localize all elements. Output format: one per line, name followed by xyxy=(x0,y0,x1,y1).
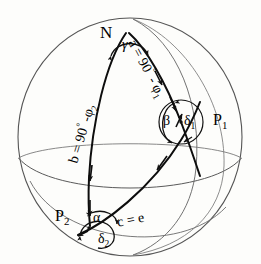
equator-front-arc xyxy=(19,158,242,188)
angle-delta2-subscript: 2 xyxy=(105,239,110,249)
point-1-subscript: 1 xyxy=(222,119,227,131)
label-angle-beta: β xyxy=(163,114,170,128)
angle-delta2-text: δ xyxy=(98,231,105,246)
angle-beta-text: β xyxy=(163,113,170,128)
equator-back-arc xyxy=(19,144,242,158)
point-2-subscript: 2 xyxy=(64,215,69,227)
point-2-text: P xyxy=(55,207,64,224)
label-point-1: P1 xyxy=(213,112,227,131)
angle-delta1-subscript: 1 xyxy=(191,121,196,131)
vertex-p2-dot xyxy=(87,226,90,229)
label-north-pole: N xyxy=(100,24,112,41)
angle-alpha-text: α xyxy=(93,210,100,225)
angle-delta1-text: δ xyxy=(184,113,191,128)
label-point-2: P2 xyxy=(55,208,69,227)
label-angle-delta2: δ2 xyxy=(98,232,109,249)
vertex-p1-dot xyxy=(179,120,182,123)
spherical-triangle-figure: N γ a = 90° - φ1 b = 90° -φ2 c = e β δ1 … xyxy=(0,0,261,264)
label-angle-delta1: δ1 xyxy=(184,114,195,131)
north-pole-text: N xyxy=(100,23,112,42)
label-angle-alpha: α xyxy=(93,211,100,225)
point-1-text: P xyxy=(213,111,222,128)
